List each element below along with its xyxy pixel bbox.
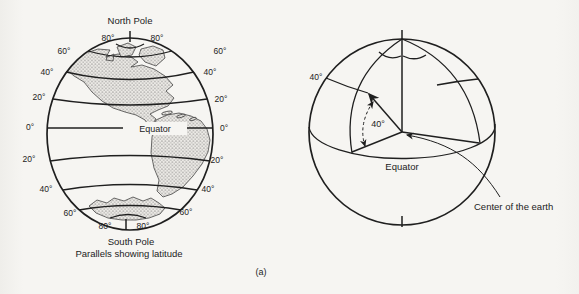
lat-label-60s-left: 60° <box>64 208 77 218</box>
polar-parallel-right <box>403 55 426 59</box>
lat-label-20s-right: 20° <box>211 155 224 165</box>
lat-label-60n-left: 60° <box>58 46 71 56</box>
lat-label-40s-left: 40° <box>40 184 53 194</box>
angle-40-label: 40° <box>371 119 385 129</box>
lat-label-20n-right: 20° <box>215 94 228 104</box>
polar-parallel-left <box>379 52 401 58</box>
lat-label-0-right: 0° <box>220 123 228 133</box>
latitude-40-label: 40° <box>310 72 323 82</box>
north-pole-label: North Pole <box>108 15 153 26</box>
left-globe-caption: Parallels showing latitude <box>75 248 182 259</box>
equator-label-left-globe: Equator <box>139 124 171 134</box>
right-globe: 40° 40° Equator Center of the earth <box>309 30 553 227</box>
radius-to-equator-left <box>352 132 402 152</box>
arctic-island-landmass <box>117 43 136 57</box>
antarctica-landmass <box>89 197 165 220</box>
parallel-40-right <box>437 79 478 85</box>
meridian-right-front <box>402 39 480 143</box>
subfigure-label: (a) <box>256 267 267 277</box>
radius-to-equator-right <box>402 132 479 143</box>
lat-label-40n-right: 40° <box>204 67 217 77</box>
lat-label-40s-right: 40° <box>202 184 215 194</box>
lat-label-80n-right: 80° <box>151 33 164 43</box>
left-globe: Equator 80° 80° 60° 60° 40° 40° 20° 20° … <box>23 15 229 259</box>
latitude-diagram-figure: Equator 80° 80° 60° 60° 40° 40° 20° 20° … <box>0 0 579 294</box>
equator-label-right-globe: Equator <box>385 161 418 172</box>
south-pole-label: South Pole <box>108 236 154 247</box>
lat-label-80n-left: 80° <box>102 33 115 43</box>
lat-label-0-left: 0° <box>26 122 34 132</box>
lat-label-80s-right: 80° <box>137 221 150 231</box>
lat-label-60n-right: 60° <box>214 46 227 56</box>
lat-label-40n-left: 40° <box>41 67 54 77</box>
center-of-earth-label: Center of the earth <box>474 201 553 212</box>
lat-label-80s-left: 80° <box>99 221 112 231</box>
lat-label-20n-left: 20° <box>33 92 46 102</box>
figure-canvas: Equator 80° 80° 60° 60° 40° 40° 20° 20° … <box>0 0 579 294</box>
lat-label-60s-right: 60° <box>180 207 193 217</box>
lat-label-20s-left: 20° <box>23 154 36 164</box>
